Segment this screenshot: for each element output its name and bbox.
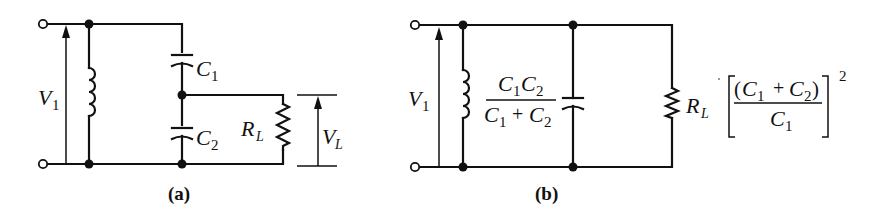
panel-b: V 1 C 1 C 2 C 1 + C 2 R L ( C 1 + C 2	[408, 21, 847, 206]
svg-text:C: C	[789, 76, 804, 101]
node	[569, 163, 578, 172]
label-rl-b: R	[685, 93, 700, 118]
arrow-head-icon	[435, 27, 443, 40]
node	[85, 20, 94, 29]
svg-text:+: +	[512, 103, 523, 125]
terminal	[39, 160, 47, 168]
svg-text:C: C	[498, 71, 513, 96]
circuit-figure: V 1 C 1 C 2 R L V L (a)	[0, 0, 880, 221]
svg-text:C: C	[484, 102, 499, 127]
equivalent-capacitance: C 1 C 2 C 1 + C 2	[484, 71, 556, 130]
exponent: 2	[839, 68, 847, 84]
arrow-head-icon	[62, 25, 70, 38]
rl-wire-a	[182, 95, 283, 104]
svg-text:2: 2	[804, 88, 812, 104]
label-c1-a: C	[196, 56, 211, 81]
svg-text:1: 1	[211, 68, 219, 84]
node	[569, 21, 578, 30]
terminal	[39, 20, 47, 28]
terminal	[411, 21, 419, 29]
svg-text:1: 1	[757, 88, 765, 104]
terminal	[411, 163, 419, 171]
arrow-head-icon	[314, 96, 322, 109]
node	[178, 91, 187, 100]
transform-factor: ( C 1 + C 2 ) C 1 2	[718, 68, 846, 137]
caption-b: (b)	[535, 183, 558, 205]
node	[459, 163, 468, 172]
svg-text:(: (	[734, 77, 741, 101]
svg-text:1: 1	[513, 83, 521, 99]
resistor-rl-a	[277, 104, 289, 150]
svg-text:C: C	[770, 106, 785, 131]
node	[85, 160, 94, 169]
panel-a: V 1 C 1 C 2 R L V L (a)	[38, 20, 343, 206]
svg-text:1: 1	[422, 98, 430, 114]
svg-text:L: L	[700, 106, 709, 121]
label-rl-a: R	[240, 116, 255, 141]
svg-text:L: L	[334, 137, 343, 152]
bottom-wire-a	[47, 150, 283, 164]
svg-text:2: 2	[211, 137, 219, 153]
svg-text:C: C	[529, 102, 544, 127]
node	[178, 160, 187, 169]
inductor-b	[463, 70, 469, 118]
svg-text:1: 1	[52, 97, 60, 113]
svg-text:2: 2	[544, 114, 552, 130]
caption-a: (a)	[168, 183, 190, 205]
node	[459, 21, 468, 30]
svg-text:1: 1	[785, 118, 793, 134]
label-c2-a: C	[196, 125, 211, 150]
svg-text:L: L	[255, 129, 264, 144]
svg-text:2: 2	[536, 83, 544, 99]
inductor-a	[89, 68, 95, 116]
svg-text:+: +	[773, 77, 784, 99]
resistor-rl-b	[666, 88, 678, 118]
top-wire-b	[419, 25, 672, 88]
svg-text:1: 1	[499, 114, 507, 130]
bracket-right	[822, 76, 828, 137]
svg-text:C: C	[521, 71, 536, 96]
svg-text:): )	[812, 77, 819, 101]
svg-text:C: C	[742, 76, 757, 101]
